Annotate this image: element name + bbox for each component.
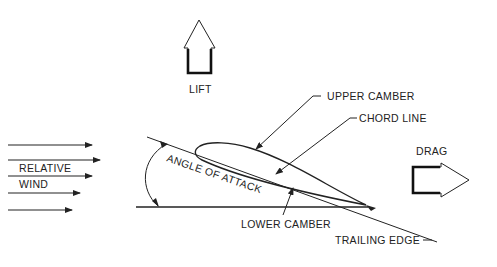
arc-arrowhead-bottom-icon <box>152 198 159 207</box>
upper-camber-label: UPPER CAMBER <box>327 90 415 102</box>
lift-label: LIFT <box>189 83 212 95</box>
drag-arrow-icon <box>413 163 469 197</box>
wind-label: WIND <box>19 178 48 190</box>
upper-camber-leader-icon <box>256 96 321 149</box>
relative-label: RELATIVE <box>19 162 71 174</box>
trailing-edge-arrowhead-icon <box>366 205 376 211</box>
lift-arrow-icon <box>184 20 215 73</box>
lower-camber-leader-icon <box>283 188 293 215</box>
trailing-edge-label: TRAILING EDGE <box>335 234 420 246</box>
angle-arc-icon <box>145 144 166 206</box>
drag-label: DRAG <box>416 145 448 157</box>
chord-line-label: CHORD LINE <box>359 112 427 124</box>
lower-camber-label: LOWER CAMBER <box>241 218 331 230</box>
airfoil-diagram: LIFT RELATIVE WIND ANGLE OF ATTACK UPPER… <box>0 0 497 267</box>
chord-line-leader-icon <box>276 118 357 174</box>
